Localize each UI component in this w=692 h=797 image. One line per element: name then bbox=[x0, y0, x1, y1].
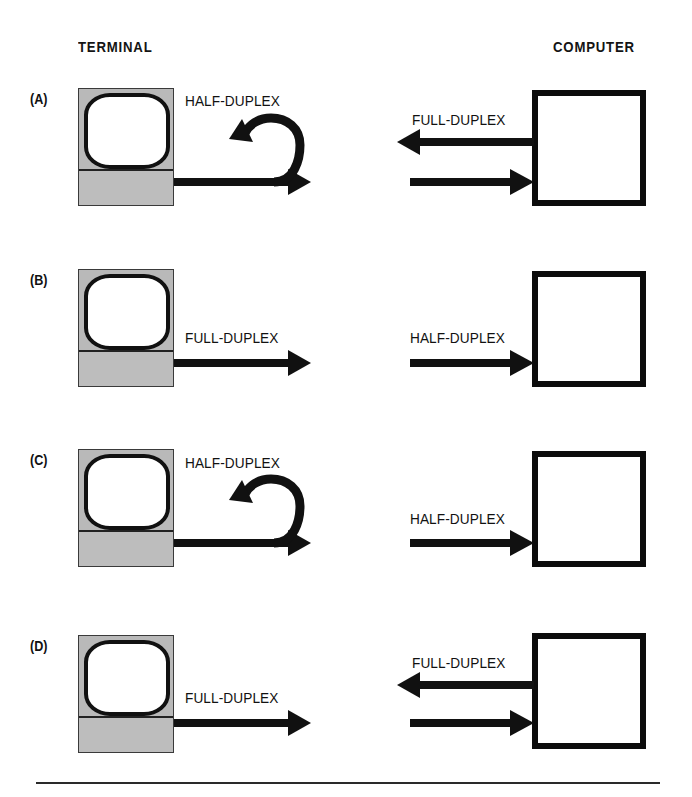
computer-inbound-stem-c bbox=[410, 539, 516, 547]
duplex-configuration-figure: TERMINAL COMPUTER (A) HALF-DUPLEX FULL-D… bbox=[0, 0, 692, 797]
panel-label-b: (B) bbox=[30, 272, 47, 288]
terminal-echo-loop-a bbox=[245, 118, 300, 182]
computer-inbound-arrowhead-a bbox=[510, 169, 534, 195]
terminal-base bbox=[79, 716, 173, 752]
computer-box-d bbox=[532, 633, 646, 749]
terminal-link-label-b: FULL-DUPLEX bbox=[185, 330, 278, 346]
terminal-outbound-arrowhead-a bbox=[288, 169, 311, 195]
terminal-device-a bbox=[78, 88, 174, 206]
terminal-arrow-group-c bbox=[174, 479, 311, 556]
computer-outbound-stem-d bbox=[420, 681, 534, 689]
computer-link-label-d: FULL-DUPLEX bbox=[412, 655, 505, 671]
terminal-arrow-group-b bbox=[174, 350, 311, 376]
computer-arrow-group-c bbox=[410, 530, 534, 556]
terminal-device-c bbox=[78, 449, 174, 567]
terminal-arrow-group-d bbox=[174, 710, 311, 736]
terminal-outbound-arrowhead-d bbox=[288, 710, 311, 736]
crt-screen-icon bbox=[84, 93, 170, 169]
terminal-device-b bbox=[78, 269, 174, 387]
panel-label-c: (C) bbox=[30, 452, 47, 468]
panel-label-a: (A) bbox=[30, 91, 47, 107]
computer-link-label-a: FULL-DUPLEX bbox=[412, 112, 505, 128]
computer-inbound-arrowhead-b bbox=[510, 350, 534, 376]
computer-arrow-group-d bbox=[397, 672, 534, 736]
terminal-base bbox=[79, 350, 173, 386]
column-heading-terminal: TERMINAL bbox=[78, 38, 153, 55]
terminal-echo-loop-c bbox=[245, 479, 300, 543]
terminal-outbound-arrowhead-c bbox=[288, 530, 311, 556]
panel-label-d: (D) bbox=[30, 638, 47, 654]
crt-screen-icon bbox=[84, 640, 170, 716]
computer-inbound-stem-a bbox=[410, 178, 516, 186]
computer-inbound-stem-d bbox=[410, 719, 516, 727]
computer-outbound-arrowhead-d bbox=[397, 672, 420, 698]
terminal-outbound-stem-b bbox=[174, 359, 296, 367]
computer-outbound-arrowhead-a bbox=[397, 129, 420, 155]
computer-inbound-stem-b bbox=[410, 359, 516, 367]
terminal-outbound-arrowhead-b bbox=[288, 350, 311, 376]
terminal-link-label-a: HALF-DUPLEX bbox=[185, 93, 280, 109]
bottom-divider-rule bbox=[36, 782, 660, 784]
terminal-device-d bbox=[78, 635, 174, 753]
column-heading-computer: COMPUTER bbox=[553, 38, 635, 55]
crt-screen-icon bbox=[84, 454, 170, 530]
computer-arrow-group-b bbox=[410, 350, 534, 376]
computer-box-c bbox=[532, 451, 646, 567]
terminal-outbound-stem-d bbox=[174, 719, 296, 727]
computer-link-label-b: HALF-DUPLEX bbox=[410, 330, 505, 346]
terminal-outbound-stem-c bbox=[174, 539, 296, 547]
crt-screen-icon bbox=[84, 274, 170, 350]
terminal-base bbox=[79, 530, 173, 566]
computer-inbound-arrowhead-d bbox=[510, 710, 534, 736]
terminal-echo-arrowhead-c bbox=[229, 480, 253, 503]
terminal-echo-arrowhead-a bbox=[229, 119, 253, 142]
computer-box-a bbox=[532, 90, 646, 206]
terminal-link-label-d: FULL-DUPLEX bbox=[185, 690, 278, 706]
computer-arrow-group-a bbox=[397, 129, 534, 195]
computer-link-label-c: HALF-DUPLEX bbox=[410, 511, 505, 527]
terminal-outbound-stem-a bbox=[174, 178, 296, 186]
terminal-link-label-c: HALF-DUPLEX bbox=[185, 455, 280, 471]
computer-box-b bbox=[532, 271, 646, 387]
computer-inbound-arrowhead-c bbox=[510, 530, 534, 556]
terminal-base bbox=[79, 169, 173, 205]
terminal-arrow-group-a bbox=[174, 118, 311, 195]
computer-outbound-stem-a bbox=[420, 138, 534, 146]
